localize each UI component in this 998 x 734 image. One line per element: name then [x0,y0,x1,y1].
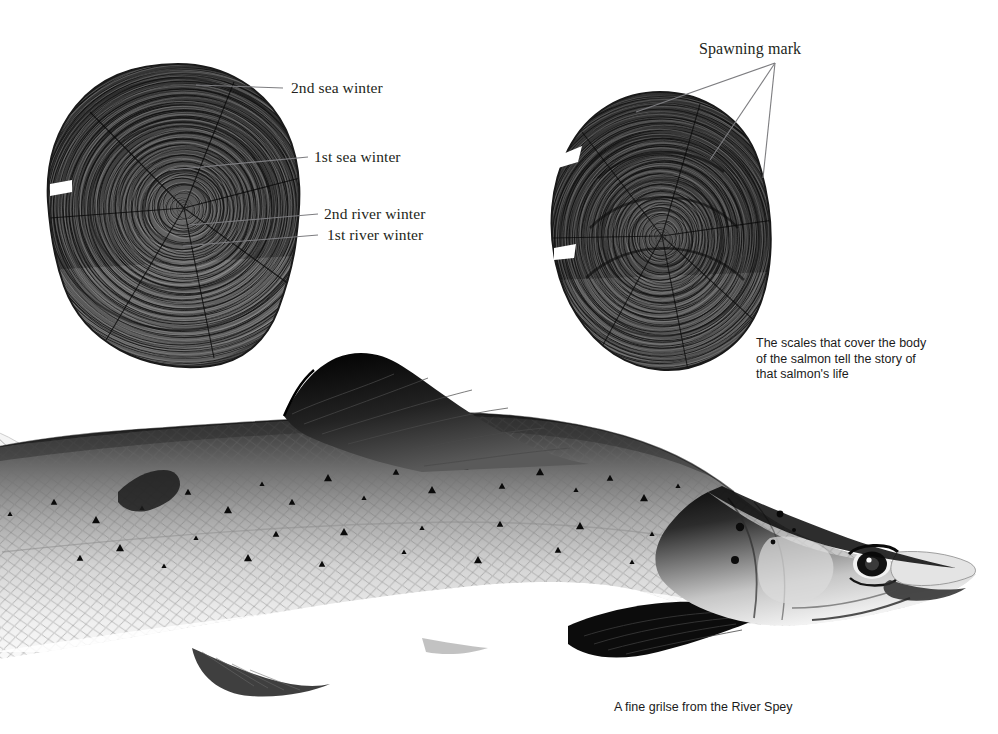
label-2nd-river-winter: 2nd river winter [324,205,425,223]
salmon-scale-left [28,58,316,370]
caption-fish: A fine grilse from the River Spey [614,700,793,716]
label-1st-river-winter: 1st river winter [327,226,423,244]
salmon-scale-right [538,88,784,372]
diagram-page: 2nd sea winter 1st sea winter 2nd river … [0,0,998,734]
label-2nd-sea-winter: 2nd sea winter [291,79,383,97]
caption-scales-story: The scales that cover the body of the sa… [756,336,936,383]
atlantic-salmon-grilse [0,352,984,712]
label-spawning-mark: Spawning mark [699,40,801,58]
label-1st-sea-winter: 1st sea winter [314,148,401,166]
